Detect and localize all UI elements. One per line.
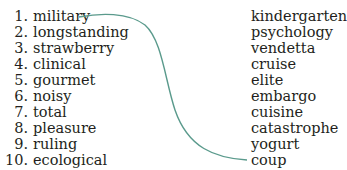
list-item: catastrophe xyxy=(251,120,347,136)
list-item: kindergarten xyxy=(251,8,347,24)
list-item: 2.longstanding xyxy=(0,24,129,40)
list-item: elite xyxy=(251,72,347,88)
list-item: 4.clinical xyxy=(0,56,129,72)
list-item: cuisine xyxy=(251,104,347,120)
list-item: 5.gourmet xyxy=(0,72,129,88)
list-item: embargo xyxy=(251,88,347,104)
list-item: psychology xyxy=(251,24,347,40)
right-word-list: kindergarten psychology vendetta cruise … xyxy=(251,8,347,168)
list-item: coup xyxy=(251,152,347,168)
left-word-list: 1.military 2.longstanding 3.strawberry 4… xyxy=(0,8,129,168)
list-item: yogurt xyxy=(251,136,347,152)
list-item: 9.ruling xyxy=(0,136,129,152)
list-item: cruise xyxy=(251,56,347,72)
list-item: 7.total xyxy=(0,104,129,120)
list-item: 6.noisy xyxy=(0,88,129,104)
list-item: 3.strawberry xyxy=(0,40,129,56)
list-item: 1.military xyxy=(0,8,129,24)
list-item: 8.pleasure xyxy=(0,120,129,136)
list-item: 10.ecological xyxy=(0,152,129,168)
list-item: vendetta xyxy=(251,40,347,56)
